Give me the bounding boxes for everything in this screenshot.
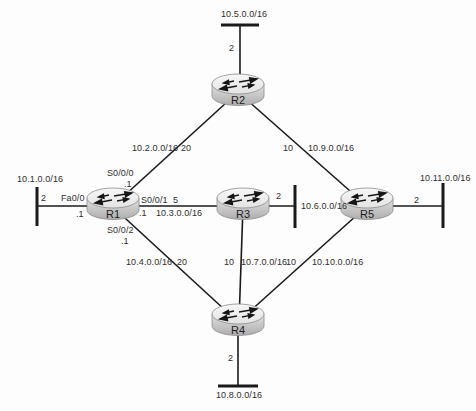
router-r5: R5 — [339, 185, 395, 225]
interface-label-s0-0-2: S0/0/2 — [107, 225, 134, 235]
router-r2: R2 — [210, 71, 266, 111]
router-label-r1: R1 — [106, 208, 120, 220]
network-label-10-4: 10.4.0.0/16 — [126, 257, 172, 267]
router-label-r5: R5 — [360, 208, 374, 220]
cost-label-lan6: 2 — [276, 191, 281, 201]
ip-host-label-s0-0-0: .1 — [124, 179, 132, 189]
ip-host-label-s0-0-2: .1 — [121, 236, 129, 246]
network-label-10-7: 10.7.0.0/16 — [241, 257, 287, 267]
router-label-r3: R3 — [236, 208, 250, 220]
cost-label-lan5: 2 — [229, 43, 234, 53]
router-r1: R1 — [85, 185, 141, 225]
network-label-10-9: 10.9.0.0/16 — [308, 143, 354, 153]
router-r3: R3 — [215, 185, 271, 225]
interface-label-s0-0-1: S0/0/1 — [141, 195, 168, 205]
router-icon: R2 — [210, 71, 266, 111]
cost-label-r2-r5: 10 — [283, 143, 293, 153]
router-r4: R4 — [210, 301, 266, 341]
cost-label-r1-r4: 20 — [177, 257, 187, 267]
network-label-10-8: 10.8.0.0/16 — [216, 390, 262, 400]
router-icon: R1 — [85, 185, 141, 225]
network-topology-diagram: R1 R2 R3 — [0, 0, 476, 411]
cost-label-r3-r4: 10 — [224, 257, 234, 267]
cost-label-lan11: 2 — [414, 195, 419, 205]
cost-label-r1-r3: 5 — [173, 195, 178, 205]
cost-label-r4-r5: 10 — [286, 257, 296, 267]
cost-label-r1-r2: 20 — [181, 143, 191, 153]
ip-host-label-s0-0-1: .1 — [139, 208, 147, 218]
network-label-10-6: 10.6.0.0/16 — [301, 201, 347, 211]
network-label-10-1: 10.1.0.0/16 — [17, 174, 63, 184]
router-icon: R4 — [210, 301, 266, 341]
network-label-10-11: 10.11.0.0/16 — [420, 173, 471, 183]
network-label-10-5: 10.5.0.0/16 — [221, 9, 267, 19]
router-icon: R3 — [215, 185, 271, 225]
interface-label-s0-0-0: S0/0/0 — [107, 168, 134, 178]
network-label-10-2: 10.2.0.0/16 — [132, 143, 178, 153]
cost-label-lan8: 2 — [228, 353, 233, 363]
interface-label-fa0-0: Fa0/0 — [61, 193, 85, 203]
router-icon: R5 — [339, 185, 395, 225]
network-label-10-10: 10.10.0.0/16 — [312, 257, 363, 267]
cost-label-lan1: 2 — [41, 193, 46, 203]
ip-host-label-fa0-0: .1 — [76, 209, 84, 219]
network-label-10-3: 10.3.0.0/16 — [156, 208, 202, 218]
router-label-r4: R4 — [231, 324, 245, 336]
router-label-r2: R2 — [231, 94, 245, 106]
